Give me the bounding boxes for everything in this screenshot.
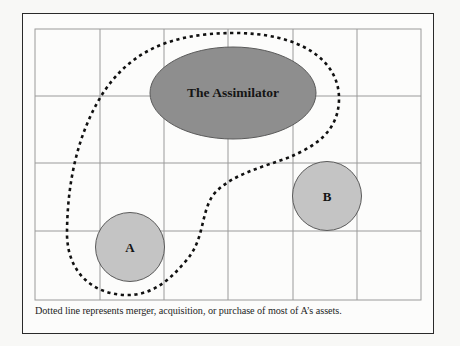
assimilator-label: The Assimilator: [187, 85, 279, 100]
node-assimilator: The Assimilator: [150, 47, 316, 139]
node-a: A: [96, 213, 165, 282]
figure-caption: Dotted line represents merger, acquisiti…: [35, 305, 342, 316]
circle-b-label: B: [323, 189, 332, 204]
node-b: B: [293, 162, 362, 231]
diagram-canvas: The Assimilator A B: [0, 0, 460, 346]
circle-a-label: A: [125, 240, 135, 255]
